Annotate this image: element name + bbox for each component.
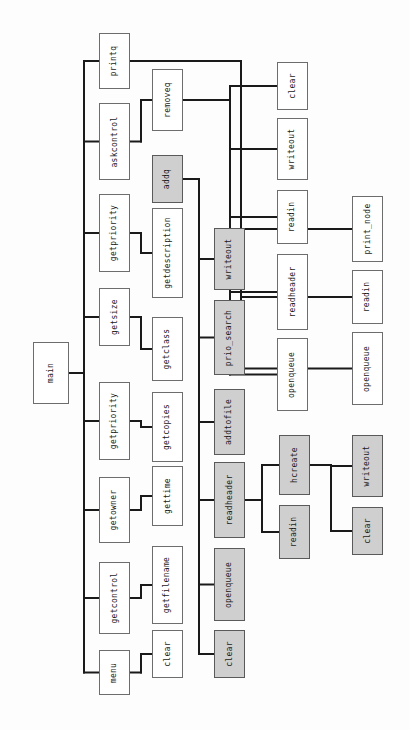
node-getdescription[interactable]: getdescription [152,208,183,298]
node-clear_hc[interactable]: clear [352,507,383,555]
node-label: getowner [111,490,119,531]
node-label: openqueue [289,351,297,397]
node-label: openqueue [226,561,234,607]
node-askcontrol[interactable]: askcontrol [99,103,130,180]
node-label: askcontrol [111,116,119,167]
node-label: writeout [226,239,234,280]
node-label: clear [364,518,372,544]
node-readin_r[interactable]: readin [277,190,308,244]
node-print_node[interactable]: print_node [352,196,383,262]
node-label: hcreate [291,447,299,483]
node-label: getsize [111,299,119,335]
node-clear_a[interactable]: clear [214,630,245,678]
node-writeout_r[interactable]: writeout [277,118,308,180]
node-getcontrol[interactable]: getcontrol [99,562,130,634]
node-label: writeout [289,129,297,170]
node-label: getpriority [111,205,119,261]
node-label: getcontrol [111,572,119,623]
node-clear_c2[interactable]: clear [152,630,183,678]
node-label: getfilename [164,557,172,613]
node-openqueue_r[interactable]: openqueue [277,338,308,411]
node-label: clear [289,73,297,99]
node-hcreate[interactable]: hcreate [279,435,310,495]
node-addtofile[interactable]: addtofile [214,389,245,455]
node-prio_search[interactable]: prio_search [214,300,245,375]
node-readheader_r[interactable]: readheader [277,254,308,330]
node-gettime[interactable]: gettime [152,466,183,526]
node-clear_r[interactable]: clear [277,62,308,110]
node-label: openqueue [364,345,372,391]
node-menu[interactable]: menu [99,650,130,695]
node-getsize[interactable]: getsize [99,288,130,346]
node-openqueue_a[interactable]: openqueue [214,548,245,621]
node-getpriority2[interactable]: getpriority [99,382,130,460]
node-label: readin [291,517,299,548]
node-label: addq [164,169,172,189]
node-label: getclass [164,329,172,370]
node-label: readheader [226,474,234,525]
node-label: readin [289,202,297,233]
node-label: addtofile [226,399,234,445]
node-label: menu [111,662,119,682]
node-getowner[interactable]: getowner [99,477,130,543]
node-main[interactable]: main [33,342,69,404]
node-label: clear [226,641,234,667]
node-label: getdescription [164,217,172,289]
diagram-canvas: mainprintqaskcontrolgetprioritygetsizege… [0,0,410,730]
node-label: clear [164,641,172,667]
node-addq[interactable]: addq [152,155,183,203]
node-readin_h[interactable]: readin [279,505,310,559]
node-writeout_hc[interactable]: writeout [352,435,383,497]
node-label: printq [111,46,119,77]
node-label: writeout [364,446,372,487]
node-getcopies[interactable]: getcopies [152,392,183,462]
node-removeq[interactable]: removeq [152,69,183,131]
node-label: prio_search [226,309,234,365]
node-readin_p[interactable]: readin [352,270,383,324]
node-openqueue_p[interactable]: openqueue [352,332,383,405]
node-label: main [47,363,55,383]
node-getpriority1[interactable]: getpriority [99,194,130,272]
node-label: readin [364,282,372,313]
node-label: getpriority [111,393,119,449]
node-printq[interactable]: printq [99,33,130,89]
node-label: getcopies [164,404,172,450]
node-label: readheader [289,266,297,317]
node-label: print_node [364,203,372,254]
node-label: gettime [164,478,172,514]
node-writeout_a[interactable]: writeout [214,228,245,290]
node-getfilename[interactable]: getfilename [152,546,183,624]
node-readheader_a[interactable]: readheader [214,462,245,538]
node-getclass[interactable]: getclass [152,317,183,381]
node-label: removeq [164,82,172,118]
